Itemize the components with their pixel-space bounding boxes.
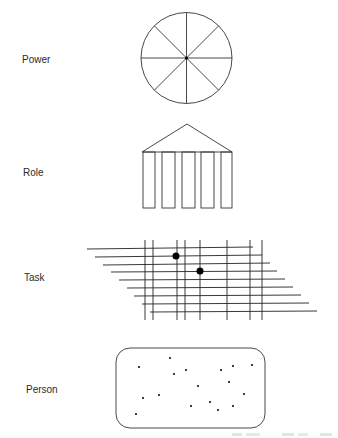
grid-icon <box>87 240 317 320</box>
temple-icon <box>142 124 232 208</box>
diagram-canvas <box>0 0 338 438</box>
wheel-icon <box>141 13 232 104</box>
cropped-footer-text <box>232 433 332 436</box>
dotted-box-icon <box>116 348 265 428</box>
